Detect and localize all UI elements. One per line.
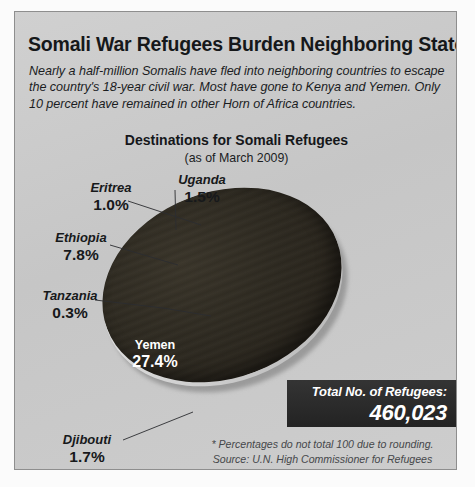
pie-label-ethiopia-percent: 7.8% <box>33 246 129 264</box>
infographic-panel: Somali War Refugees Burden Neighboring S… <box>14 11 457 470</box>
pie-label-tanzania-name: Tanzania <box>20 288 120 303</box>
pie-label-yemen: Yemen 27.4% <box>107 338 203 371</box>
pie-label-tanzania: Tanzania 0.3% <box>20 288 120 322</box>
total-refugees-box: Total No. of Refugees: 460,023 <box>287 380 456 427</box>
footnotes: * Percentages do not total 100 due to ro… <box>195 437 450 467</box>
pie-label-djibouti: Djibouti 1.7% <box>37 432 137 466</box>
footnote-source: Source: U.N. High Commissioner for Refug… <box>195 452 450 467</box>
total-refugees-label: Total No. of Refugees: <box>287 384 447 399</box>
pie-label-uganda-name: Uganda <box>163 172 241 187</box>
pie-label-ethiopia-name: Ethiopia <box>33 230 129 245</box>
pie-label-ethiopia: Ethiopia 7.8% <box>33 230 129 264</box>
pie-label-eritrea: Eritrea 1.0% <box>65 180 157 214</box>
pie-label-yemen-name: Yemen <box>107 338 203 352</box>
pie-label-yemen-percent: 27.4% <box>107 353 203 371</box>
pie-label-eritrea-name: Eritrea <box>65 180 157 195</box>
total-refugees-value: 460,023 <box>287 400 447 426</box>
pie-label-djibouti-name: Djibouti <box>37 432 137 447</box>
pie-label-uganda: Uganda 1.5% <box>163 172 241 206</box>
pie-label-uganda-percent: 1.5% <box>163 188 241 206</box>
footnote-rounding: * Percentages do not total 100 due to ro… <box>195 437 450 452</box>
pie-label-djibouti-percent: 1.7% <box>37 448 137 466</box>
pie-label-tanzania-percent: 0.3% <box>20 304 120 322</box>
pie-label-eritrea-percent: 1.0% <box>65 196 157 214</box>
